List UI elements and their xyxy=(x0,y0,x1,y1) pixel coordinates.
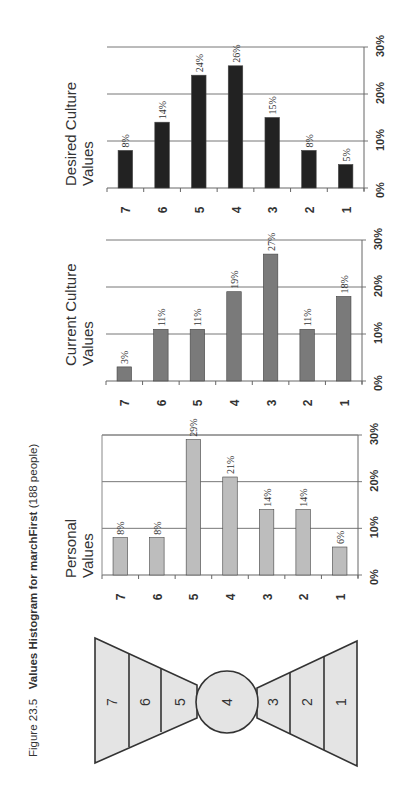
bowtie-level-label: 2 xyxy=(299,698,315,706)
bowtie-level-label: 6 xyxy=(137,698,153,706)
bowtie-level-label: 7 xyxy=(104,698,120,706)
bowtie-level-label: 3 xyxy=(265,698,281,706)
bowtie-level-label: 5 xyxy=(172,698,188,706)
bowtie-level-label: 4 xyxy=(219,698,235,706)
bowtie-level-label: 1 xyxy=(333,698,349,706)
bowtie-diagram: 7654321 xyxy=(0,0,398,809)
